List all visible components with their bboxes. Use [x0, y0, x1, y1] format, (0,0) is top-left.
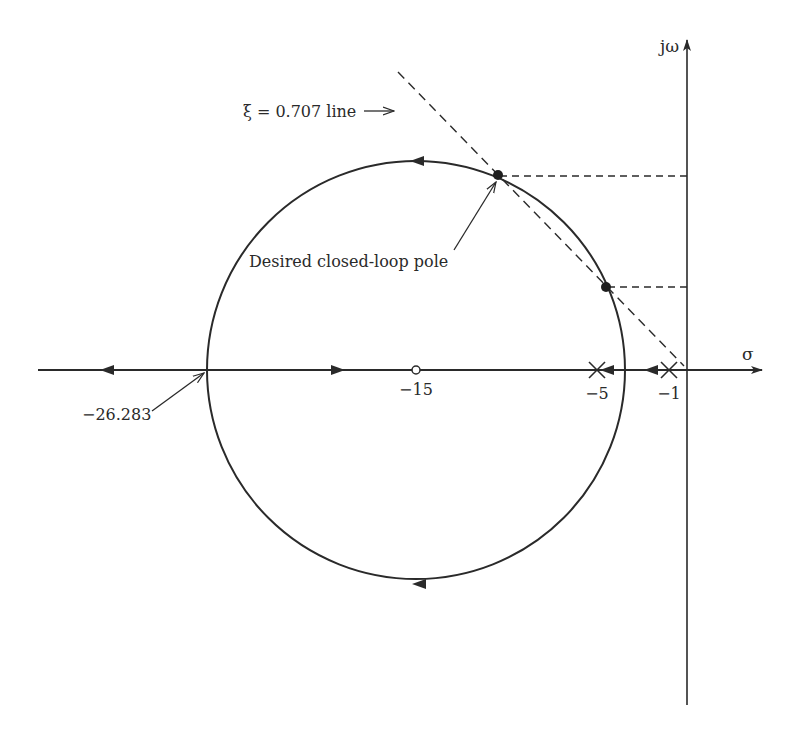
zero-marker-icon	[412, 366, 420, 374]
arrow-right-icon	[331, 365, 345, 375]
arrow-left-icon	[412, 579, 426, 589]
sigma-axis-label: σ	[742, 344, 754, 364]
pole-a-tick-label: −5	[585, 384, 609, 403]
pole-b-tick-label: −1	[657, 384, 681, 403]
zero-tick-label: −15	[399, 380, 433, 399]
locus-direction-arrows	[100, 156, 658, 589]
desired-pole-label: Desired closed-loop pole	[249, 252, 448, 271]
desired-pole-dot	[493, 170, 503, 180]
arrow-left-icon	[410, 156, 424, 166]
second-intersection-dot	[601, 282, 611, 292]
zeta-line-label: ξ = 0.707 line	[243, 102, 356, 121]
arrow-left-icon	[100, 365, 114, 375]
arrow-left-icon	[644, 365, 658, 375]
root-locus-diagram: jω σ ξ = 0.707 line Desired closed-loop …	[0, 0, 788, 737]
zeta-line	[398, 72, 684, 366]
jw-axis-label: jω	[658, 36, 679, 56]
arrow-left-icon	[600, 365, 614, 375]
breakin-point-label: −26.283	[82, 405, 151, 424]
